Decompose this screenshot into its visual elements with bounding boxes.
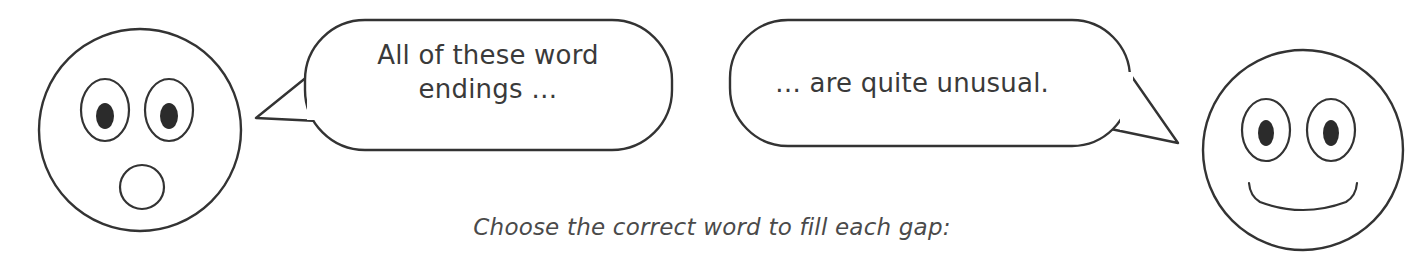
speech-bubble-right-tail-join [1120, 72, 1133, 130]
surprised-face-left-pupil [96, 103, 114, 129]
surprised-face-group [39, 29, 241, 231]
worksheet-header-illustration: All of these word endings … … are quite … [0, 0, 1424, 271]
smiling-face-right-pupil [1323, 120, 1339, 146]
smiling-face-left-pupil [1258, 120, 1274, 146]
surprised-face-outline [39, 29, 241, 231]
smiling-face-mouth [1249, 183, 1357, 210]
instruction-text: Choose the correct word to fill each gap… [0, 214, 1424, 240]
speech-bubble-left-text: All of these word endings … [318, 38, 658, 107]
surprised-face-mouth [120, 165, 164, 209]
speech-bubble-right-text: … are quite unusual. [742, 66, 1082, 100]
surprised-face-right-pupil [160, 103, 178, 129]
